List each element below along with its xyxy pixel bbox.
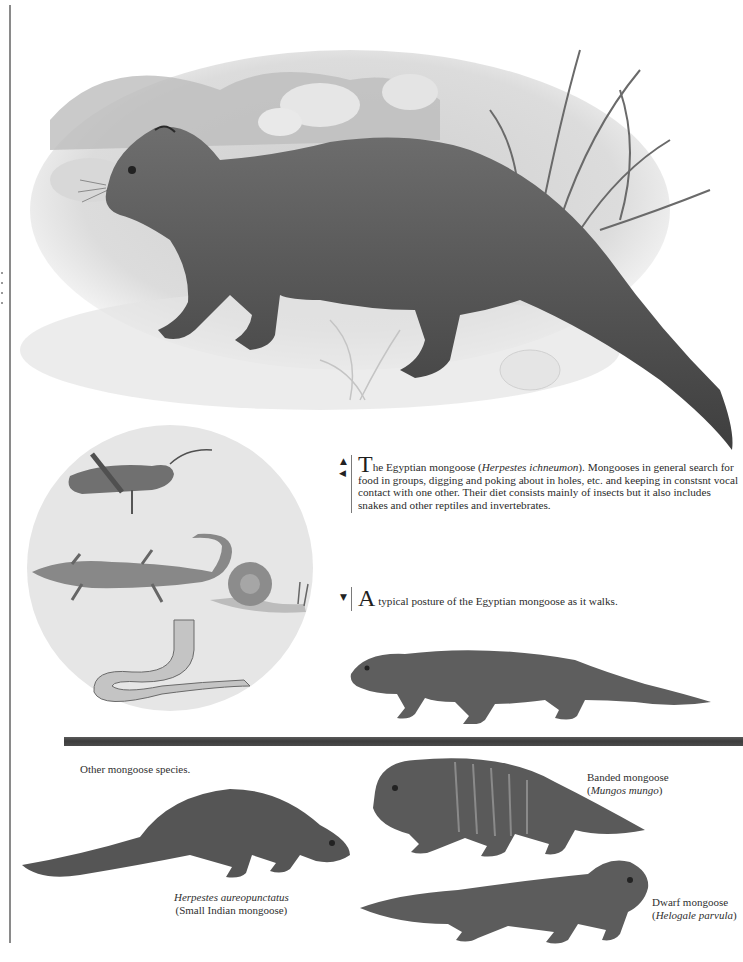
dwarf-mongoose-illustration: [358, 854, 658, 946]
caption-walking-posture: A typical posture of the Egyptian mongoo…: [358, 589, 688, 608]
margin-mark: [1, 292, 3, 294]
small-indian-mongoose-label: Herpestes aureopunctatus (Small Indian m…: [174, 891, 289, 917]
dropcap: A: [358, 585, 375, 611]
banded-mongoose-label: Banded mongoose (Mungos mungo): [587, 771, 669, 797]
left-arrow-icon: ◀: [339, 468, 346, 478]
caption-divider: [351, 587, 352, 611]
margin-mark: [1, 302, 3, 304]
dwarf-mongoose-label: Dwarf mongoose (Helogale parvula): [652, 896, 737, 922]
banded-mongoose-illustration: [355, 752, 650, 862]
prey-items-illustration: [22, 424, 318, 712]
egyptian-mongoose-illustration: [20, 30, 743, 470]
margin-mark: [1, 282, 3, 284]
up-arrow-icon: ▲: [340, 456, 347, 466]
small-indian-mongoose-illustration: [20, 785, 360, 885]
walking-mongoose-illustration: [345, 638, 715, 724]
section-separator: [64, 737, 743, 746]
down-arrow-icon: ▼: [340, 592, 347, 602]
other-species-heading: Other mongoose species.: [80, 763, 190, 775]
caption-egyptian-mongoose: The Egyptian mongoose (Herpestes ichneum…: [358, 455, 738, 511]
species-name: Herpestes ichneumon: [482, 461, 579, 473]
margin-mark: [1, 272, 3, 274]
margin-rule: [9, 5, 11, 943]
caption-divider: [351, 455, 352, 513]
